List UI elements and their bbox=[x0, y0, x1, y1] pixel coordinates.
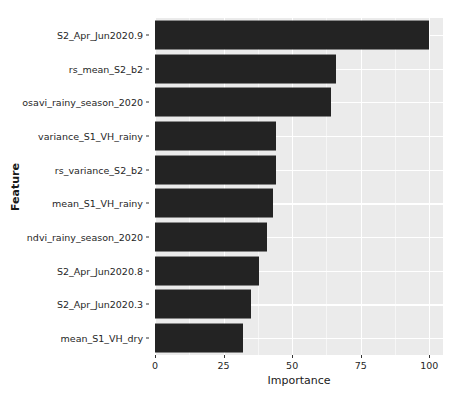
x-tick-mark bbox=[292, 355, 293, 358]
y-tick-mark bbox=[146, 135, 149, 136]
bar bbox=[155, 88, 331, 117]
y-tick-mark bbox=[146, 237, 149, 238]
y-tick-label: mean_S1_VH_dry bbox=[61, 333, 143, 344]
y-tick-label: variance_S1_VH_rainy bbox=[38, 130, 143, 141]
y-tick-label: ndvi_rainy_season_2020 bbox=[27, 232, 143, 243]
x-tick-mark bbox=[155, 355, 156, 358]
y-tick-mark bbox=[146, 270, 149, 271]
bar bbox=[155, 121, 276, 150]
bar bbox=[155, 54, 336, 83]
x-tick-mark bbox=[361, 355, 362, 358]
bar bbox=[155, 155, 276, 184]
x-tick-label: 100 bbox=[420, 360, 438, 371]
y-tick-mark bbox=[146, 68, 149, 69]
x-tick-mark bbox=[224, 355, 225, 358]
x-tick-label: 50 bbox=[286, 360, 298, 371]
bar bbox=[155, 189, 273, 218]
bar bbox=[155, 324, 243, 353]
bar bbox=[155, 290, 251, 319]
y-tick-label: rs_variance_S2_b2 bbox=[55, 164, 143, 175]
x-tick-label: 75 bbox=[355, 360, 367, 371]
feature-importance-chart: Feature S2_Apr_Jun2020.9rs_mean_S2_b2osa… bbox=[0, 0, 462, 397]
y-tick-label: mean_S1_VH_rainy bbox=[52, 198, 143, 209]
y-tick-label: S2_Apr_Jun2020.9 bbox=[57, 29, 143, 40]
y-tick-label: S2_Apr_Jun2020.3 bbox=[57, 299, 143, 310]
y-tick-mark bbox=[146, 304, 149, 305]
x-tick-label: 0 bbox=[152, 360, 158, 371]
y-tick-label: osavi_rainy_season_2020 bbox=[22, 97, 143, 108]
x-axis-title: Importance bbox=[155, 374, 443, 387]
x-tick-mark bbox=[429, 355, 430, 358]
y-tick-mark bbox=[146, 338, 149, 339]
bar bbox=[155, 223, 267, 252]
y-axis-tick-labels: S2_Apr_Jun2020.9rs_mean_S2_b2osavi_rainy… bbox=[0, 18, 149, 355]
bar bbox=[155, 256, 259, 285]
y-tick-label: rs_mean_S2_b2 bbox=[69, 63, 143, 74]
x-axis: 0255075100 bbox=[155, 355, 443, 375]
x-tick-label: 25 bbox=[218, 360, 230, 371]
bar bbox=[155, 20, 429, 49]
y-tick-mark bbox=[146, 34, 149, 35]
plot-panel bbox=[155, 18, 443, 355]
y-tick-mark bbox=[146, 169, 149, 170]
y-tick-mark bbox=[146, 203, 149, 204]
y-tick-mark bbox=[146, 102, 149, 103]
y-tick-label: S2_Apr_Jun2020.8 bbox=[57, 265, 143, 276]
